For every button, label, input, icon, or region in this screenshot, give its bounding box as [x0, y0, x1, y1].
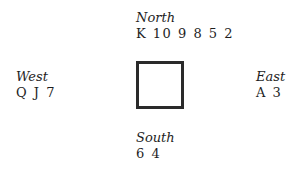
north-cards: K 10 9 8 5 2: [136, 26, 234, 42]
east-cards: A 3: [256, 85, 285, 101]
east-seat-label: East: [256, 69, 285, 85]
south-seat-label: South: [136, 130, 175, 146]
table-square: [136, 61, 184, 109]
north-hand: North K 10 9 8 5 2: [136, 10, 234, 42]
north-seat-label: North: [136, 10, 234, 26]
west-hand: West Q J 7: [16, 69, 56, 101]
south-cards: 6 4: [136, 146, 175, 162]
west-seat-label: West: [16, 69, 56, 85]
east-hand: East A 3: [256, 69, 285, 101]
south-hand: South 6 4: [136, 130, 175, 162]
west-cards: Q J 7: [16, 85, 56, 101]
